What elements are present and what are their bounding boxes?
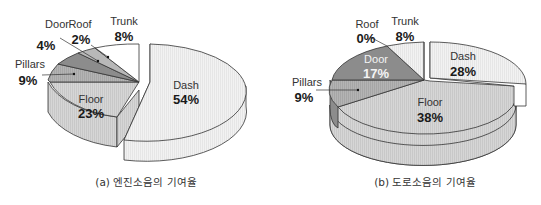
label-dash-name: Dash bbox=[450, 50, 476, 62]
label-dash-name: Dash bbox=[173, 79, 199, 91]
leader-dot-pillars bbox=[357, 89, 359, 91]
slice-dash bbox=[430, 42, 526, 84]
label-floor-pct: 38% bbox=[417, 110, 443, 125]
leader-dot-roof bbox=[107, 56, 109, 58]
leader-dot-door bbox=[97, 60, 99, 62]
label-dash-pct: 28% bbox=[450, 64, 476, 79]
label-trunk-pct: 8% bbox=[115, 29, 134, 44]
label-trunk-name: Trunk bbox=[110, 15, 138, 27]
label-trunk-name: Trunk bbox=[391, 15, 419, 27]
label-pillars-pct: 9% bbox=[295, 90, 314, 105]
figure-canvas: Door 4% Roof 2% Trunk 8% Pillars 9% Floo… bbox=[0, 0, 541, 205]
pie-chart-road-noise: Roof 0% Trunk 8% Door 17% Pillars 9% Flo… bbox=[292, 15, 526, 188]
label-dash-pct: 54% bbox=[173, 92, 199, 107]
label-door-pct: 17% bbox=[363, 66, 389, 81]
leader-dot-pillars bbox=[73, 73, 75, 75]
label-door-name: Door bbox=[364, 53, 388, 65]
label-floor-pct: 23% bbox=[78, 106, 104, 121]
label-roof-pct: 0% bbox=[357, 31, 376, 46]
label-roof-pct: 2% bbox=[72, 32, 91, 47]
label-door-pct: 4% bbox=[37, 38, 56, 53]
label-trunk-pct: 8% bbox=[396, 29, 415, 44]
caption-a: (a) 엔진소음의 기여율 bbox=[95, 176, 196, 188]
label-floor-name: Floor bbox=[417, 96, 442, 108]
label-pillars-pct: 9% bbox=[19, 73, 38, 88]
label-floor-name: Floor bbox=[78, 93, 103, 105]
label-roof-name: Roof bbox=[355, 18, 379, 30]
label-roof-name: Roof bbox=[68, 18, 92, 30]
pie-chart-engine-noise: Door 4% Roof 2% Trunk 8% Pillars 9% Floo… bbox=[15, 15, 247, 188]
caption-b: (b) 도로소음의 기여율 bbox=[374, 176, 476, 188]
label-pillars-name: Pillars bbox=[15, 58, 45, 70]
label-door-name: Door bbox=[45, 18, 69, 30]
label-pillars-name: Pillars bbox=[292, 76, 322, 88]
